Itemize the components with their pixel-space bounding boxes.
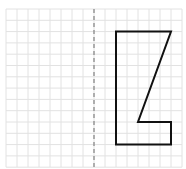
grid-diagram	[0, 0, 186, 169]
